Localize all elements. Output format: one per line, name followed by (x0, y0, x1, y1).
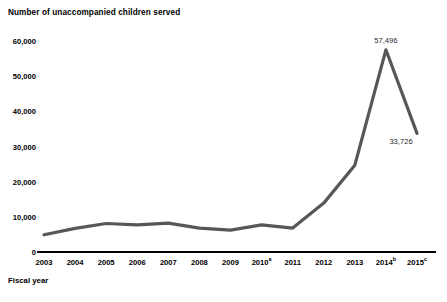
y-tick-label: 50,000 (0, 72, 36, 81)
x-tick-label-2004: 2004 (67, 258, 84, 267)
data-point-label-2015: 33,726 (389, 137, 412, 146)
x-tick-label-2003: 2003 (36, 258, 53, 267)
data-line-unaccompanied-children (44, 50, 417, 235)
footnote-marker: c (424, 256, 427, 262)
x-tick-label-2005: 2005 (98, 258, 115, 267)
footnote-marker: a (269, 256, 272, 262)
x-tick-label-2008: 2008 (191, 258, 208, 267)
line-chart-svg (37, 28, 437, 260)
y-tick-label: 0 (0, 248, 36, 257)
y-tick-label: 60,000 (0, 37, 36, 46)
plot-area (37, 28, 437, 260)
x-tick-label-2012: 2012 (315, 258, 332, 267)
x-tick-label-2011: 2011 (284, 258, 300, 267)
x-tick-label-2015: 2015c (407, 258, 427, 267)
y-tick-label: 10,000 (0, 212, 36, 221)
x-axis-title: Fiscal year (8, 276, 48, 285)
x-axis-line (37, 251, 436, 253)
y-axis: 60,00050,00040,00030,00020,00010,0000 (0, 0, 36, 302)
y-tick-label: 20,000 (0, 177, 36, 186)
x-tick-label-2009: 2009 (222, 258, 239, 267)
data-point-label-2014: 57,496 (374, 36, 397, 45)
chart-figure: Number of unaccompanied children served … (0, 0, 447, 302)
x-tick-label-2013: 2013 (346, 258, 363, 267)
x-tick-label-2010: 2010a (252, 258, 272, 267)
x-tick-label-2007: 2007 (160, 258, 177, 267)
x-tick-label-2006: 2006 (129, 258, 146, 267)
footnote-marker: b (393, 256, 396, 262)
y-tick-label: 30,000 (0, 142, 36, 151)
x-tick-label-2014: 2014b (376, 258, 396, 267)
y-tick-label: 40,000 (0, 107, 36, 116)
